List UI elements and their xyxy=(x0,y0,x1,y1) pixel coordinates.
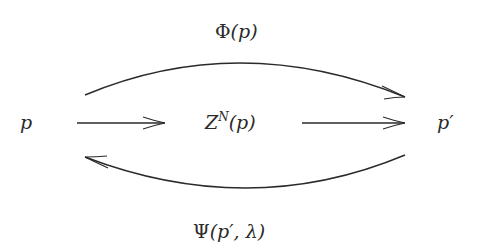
zn-superscript: N xyxy=(218,110,229,124)
bottom-arc-label: Ψ(p′, λ) xyxy=(193,222,265,241)
phi-arg: (p) xyxy=(231,20,258,42)
top-arc-label: Φ(p) xyxy=(215,22,258,41)
zn-arg: (p) xyxy=(229,111,256,133)
top-arc-arrow xyxy=(85,63,405,97)
psi-arg: (p′, λ) xyxy=(210,220,265,242)
node-p-prime: p′ xyxy=(437,113,453,132)
phi-symbol: Φ xyxy=(215,20,231,42)
node-zn-p: ZN(p) xyxy=(205,113,256,132)
node-p: p xyxy=(20,113,32,132)
zn-base: Z xyxy=(205,111,218,133)
bottom-arc-arrow xyxy=(85,155,405,188)
psi-symbol: Ψ xyxy=(193,220,210,242)
